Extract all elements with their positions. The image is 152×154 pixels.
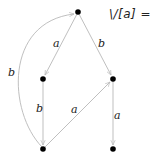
node-mid-right [110,76,116,82]
node-mid-left [40,76,46,82]
edge-label-top-mid-left: a [53,37,60,50]
edge-top-to-mid-right [79,14,111,75]
graph-diagram: a b b a a b [0,0,152,154]
edge-label-mid-right-bottom-right: a [114,109,121,122]
edge-top-to-mid-left [45,14,77,75]
edge-label-curved: b [8,66,15,79]
node-top [75,9,81,15]
edge-label-bottom-left-mid-right: a [71,103,78,116]
node-bottom-left [40,146,46,152]
edge-bottom-left-to-top-curved [18,14,74,147]
edge-label-top-mid-right: b [98,37,105,50]
node-bottom-right [110,146,116,152]
edge-label-mid-left-bottom-left: b [36,102,43,115]
